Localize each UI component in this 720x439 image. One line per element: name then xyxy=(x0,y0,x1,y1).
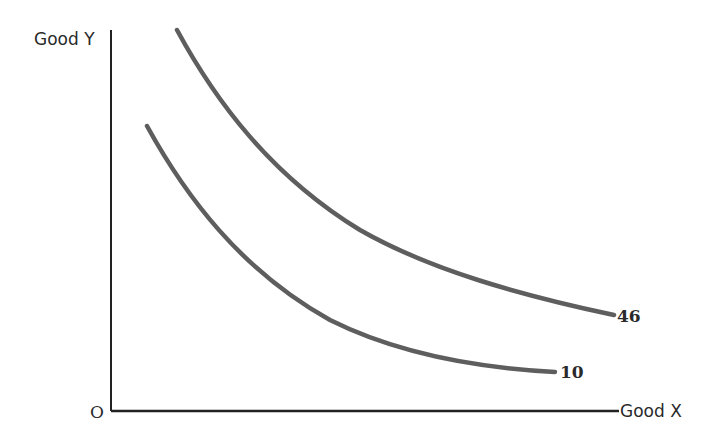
indifference-curve-46 xyxy=(177,30,614,315)
curve-label-46: 46 xyxy=(617,308,641,325)
x-axis-label: Good X xyxy=(620,403,682,420)
y-axis-label: Good Y xyxy=(34,31,95,48)
indifference-curve-10 xyxy=(147,126,555,372)
origin-label: O xyxy=(90,404,104,421)
indifference-curve-diagram xyxy=(0,0,720,439)
curve-label-10: 10 xyxy=(560,364,584,381)
